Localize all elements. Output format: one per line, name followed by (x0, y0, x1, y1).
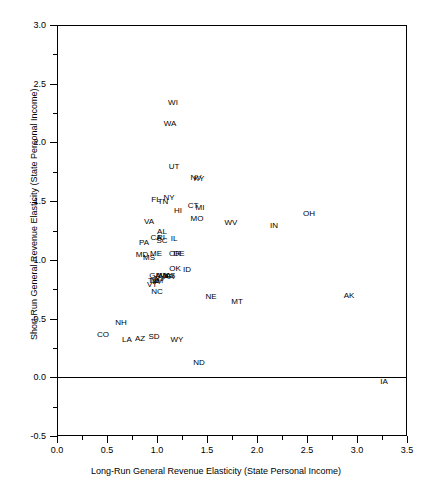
data-point-label: AZ (135, 335, 145, 343)
y-tick-major (50, 436, 57, 437)
data-point-label: NE (205, 293, 216, 301)
y-axis-title: Short-Run General Revenue Elasticity (St… (29, 100, 39, 340)
data-point-label: MO (191, 215, 204, 223)
scatter-plot-figure: -0.50.00.51.01.52.02.53.0 0.00.51.01.52.… (0, 0, 432, 498)
x-tick-major (307, 436, 308, 443)
x-tick-label: 3.5 (387, 446, 427, 455)
data-point-label: KS (165, 272, 176, 280)
y-tick-minor (53, 172, 57, 173)
data-point-label: IA (380, 378, 388, 386)
data-point-label: ME (150, 250, 162, 258)
data-point-label: NH (115, 319, 127, 327)
data-point-label: KY (194, 175, 205, 183)
x-tick-major (157, 436, 158, 443)
data-point-label: IL (171, 235, 178, 243)
x-tick-minor (232, 436, 233, 440)
x-tick-minor (82, 436, 83, 440)
x-tick-label: 2.0 (237, 446, 277, 455)
x-tick-label: 3.0 (337, 446, 377, 455)
y-tick-label: -0.5 (30, 432, 46, 441)
x-tick-minor (382, 436, 383, 440)
x-tick-major (57, 436, 58, 443)
x-tick-label: 1.5 (187, 446, 227, 455)
data-point-label: SD (148, 333, 159, 341)
y-tick-label: 0.0 (33, 373, 46, 382)
data-point-label: PA (139, 239, 149, 247)
data-point-label: OH (303, 210, 315, 218)
x-tick-major (207, 436, 208, 443)
y-tick-major (50, 260, 57, 261)
y-tick-minor (53, 231, 57, 232)
y-tick-minor (53, 348, 57, 349)
data-point-label: AK (344, 292, 355, 300)
data-point-label: ND (193, 359, 205, 367)
y-tick-major (50, 25, 57, 26)
data-point-label: MT (231, 298, 243, 306)
data-point-label: MI (196, 204, 205, 212)
x-tick-major (407, 436, 408, 443)
data-point-label: UT (169, 163, 180, 171)
data-point-label: DE (173, 250, 184, 258)
data-point-label: LA (122, 336, 132, 344)
y-tick-label: 3.0 (33, 21, 46, 30)
data-point-label: WV (225, 219, 238, 227)
y-tick-major (50, 201, 57, 202)
x-tick-minor (332, 436, 333, 440)
y-tick-minor (53, 289, 57, 290)
x-tick-major (257, 436, 258, 443)
data-point-label: WA (164, 120, 177, 128)
x-tick-label: 1.0 (137, 446, 177, 455)
data-point-label: WY (171, 336, 184, 344)
x-tick-minor (182, 436, 183, 440)
y-tick-major (50, 319, 57, 320)
y-tick-label: 2.5 (33, 80, 46, 89)
x-tick-label: 0.0 (37, 446, 77, 455)
data-point-label: NY (163, 194, 174, 202)
y-tick-major (50, 84, 57, 85)
x-tick-minor (132, 436, 133, 440)
x-tick-label: 0.5 (87, 446, 127, 455)
y-tick-minor (53, 113, 57, 114)
y-tick-minor (53, 54, 57, 55)
x-tick-major (107, 436, 108, 443)
data-point-label: ID (183, 266, 191, 274)
data-point-label: WI (168, 99, 178, 107)
data-point-label: HI (174, 207, 182, 215)
data-point-label: VA (144, 218, 154, 226)
data-point-label: CO (97, 331, 109, 339)
data-point-label: SC (156, 237, 167, 245)
data-point-label: IN (270, 222, 278, 230)
x-tick-label: 2.5 (287, 446, 327, 455)
data-point-label: NC (151, 288, 163, 296)
zero-reference-line (57, 377, 407, 378)
y-tick-minor (53, 407, 57, 408)
x-tick-major (357, 436, 358, 443)
x-axis-title: Long-Run General Revenue Elasticity (Sta… (0, 466, 432, 476)
plot-area (57, 25, 407, 436)
y-tick-major (50, 377, 57, 378)
x-tick-minor (282, 436, 283, 440)
y-tick-major (50, 142, 57, 143)
